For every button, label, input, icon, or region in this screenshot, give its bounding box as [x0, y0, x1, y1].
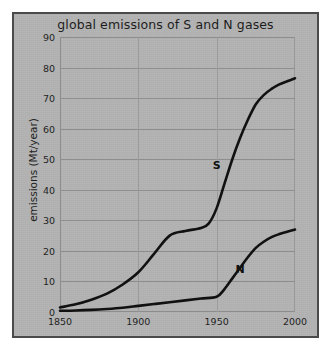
y-tick-label: 50 [43, 154, 55, 165]
x-tick-label: 1850 [48, 316, 72, 327]
y-tick-label: 40 [43, 184, 55, 195]
x-tick-label: 1900 [126, 316, 150, 327]
series-lines [60, 37, 295, 312]
y-tick-label: 60 [43, 123, 55, 134]
chart-title: global emissions of S and N gases [14, 17, 317, 32]
y-axis-label: emissions (Mt/year) [27, 95, 39, 245]
y-tick-label: 80 [43, 62, 55, 73]
y-tick-label: 20 [43, 245, 55, 256]
series-line-s [60, 78, 295, 307]
y-tick-label: 90 [43, 32, 55, 43]
y-tick-label: 10 [43, 276, 55, 287]
x-tick-label: 1950 [205, 316, 229, 327]
x-tick-label: 2000 [283, 316, 307, 327]
series-label-s: S [213, 159, 221, 172]
series-label-n: N [236, 263, 245, 276]
chart-figure: global emissions of S and N gases emissi… [12, 12, 319, 338]
y-tick-label: 30 [43, 215, 55, 226]
y-tick-label: 70 [43, 93, 55, 104]
plot-area-wrapper: 0102030405060708090 1850190019502000 SN [60, 37, 295, 312]
